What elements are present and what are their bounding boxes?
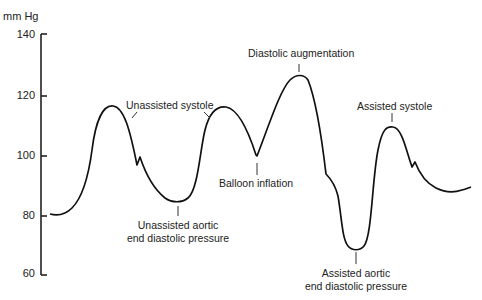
label-diastolic-augmentation: Diastolic augmentation <box>248 47 354 60</box>
label-assisted-systole: Assisted systole <box>357 100 432 113</box>
label-assisted-aedp: Assisted aortic end diastolic pressure <box>296 267 416 293</box>
label-balloon-inflation: Balloon inflation <box>219 177 293 190</box>
y-axis <box>41 34 47 275</box>
label-assisted-aedp-line1: Assisted aortic <box>296 267 416 280</box>
label-unassisted-systole: Unassisted systole <box>126 99 214 112</box>
label-assisted-aedp-line2: end diastolic pressure <box>296 280 416 293</box>
label-unassisted-aedp: Unassisted aortic end diastolic pressure <box>118 219 238 245</box>
label-unassisted-aedp-line1: Unassisted aortic <box>118 219 238 232</box>
waveform-diagram <box>0 0 482 300</box>
label-unassisted-aedp-line2: end diastolic pressure <box>118 232 238 245</box>
